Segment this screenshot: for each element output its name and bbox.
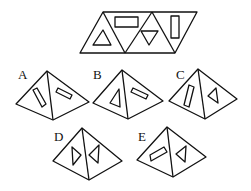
net-rectangle-vertical-symbol	[171, 16, 179, 38]
puzzle-figure: A B C D E	[0, 0, 251, 191]
pyramid-edge	[82, 128, 89, 180]
option-label: A	[18, 67, 28, 82]
option-label: C	[176, 67, 185, 82]
pyramid-edge	[198, 69, 205, 119]
net-triangle-down-symbol	[141, 31, 158, 45]
net-triangle-up-symbol	[93, 30, 111, 45]
rectangle-symbol	[56, 88, 72, 99]
pyramid-edge	[122, 70, 128, 119]
triangle-symbol	[176, 146, 186, 162]
option-c[interactable]: C	[169, 67, 237, 119]
pyramid-edge	[167, 127, 173, 177]
triangle-symbol	[110, 89, 120, 107]
option-a[interactable]: A	[16, 67, 89, 120]
option-b[interactable]: B	[93, 67, 163, 119]
pyramid-edge	[47, 71, 53, 120]
rectangle-symbol	[184, 85, 194, 107]
option-label: D	[54, 129, 63, 144]
net-fold-line	[103, 12, 125, 53]
pyramid-outline	[93, 70, 163, 119]
net-rectangle-horizontal-symbol	[115, 17, 138, 27]
option-d[interactable]: D	[53, 128, 122, 180]
pyramid-net	[80, 12, 197, 53]
rectangle-symbol	[33, 88, 46, 107]
option-e[interactable]: E	[137, 127, 206, 177]
rectangle-symbol	[150, 147, 167, 161]
rectangle-symbol	[131, 88, 148, 99]
option-label: B	[93, 67, 102, 82]
option-label: E	[138, 129, 146, 144]
triangle-symbol	[208, 88, 218, 103]
triangle-symbol	[89, 145, 99, 163]
triangle-symbol	[72, 147, 81, 165]
